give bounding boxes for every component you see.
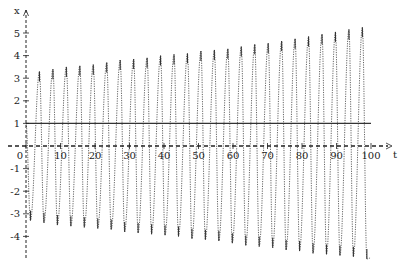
x-tick-label: 50 bbox=[192, 150, 205, 161]
x-axis-ticks: -4-3-2-112345 bbox=[10, 28, 29, 242]
x-tick-label: 0 bbox=[17, 150, 23, 161]
x-axis-label: x bbox=[14, 5, 20, 16]
x-tick-label: 20 bbox=[89, 150, 102, 161]
y-tick-label: 1 bbox=[14, 118, 20, 129]
y-tick-label: 4 bbox=[14, 50, 20, 61]
y-tick-label: 3 bbox=[14, 73, 20, 84]
y-tick-label: 5 bbox=[14, 28, 20, 39]
x-tick-label: 100 bbox=[361, 150, 380, 161]
y-tick-label: 2 bbox=[14, 95, 20, 106]
chart: 0102030405060708090100 -4-3-2-112345 t x bbox=[0, 0, 410, 273]
y-tick-label: -3 bbox=[10, 208, 20, 219]
x-tick-label: 60 bbox=[227, 150, 240, 161]
x-tick-label: 40 bbox=[158, 150, 171, 161]
y-tick-label: -2 bbox=[10, 186, 20, 197]
x-tick-label: 70 bbox=[261, 150, 274, 161]
t-axis-label: t bbox=[393, 149, 397, 160]
x-tick-label: 80 bbox=[296, 150, 309, 161]
y-tick-label: -4 bbox=[10, 231, 20, 242]
y-tick-label: -1 bbox=[10, 163, 20, 174]
plot-area: 0102030405060708090100 -4-3-2-112345 t x bbox=[0, 0, 410, 273]
x-tick-label: 10 bbox=[54, 150, 67, 161]
x-tick-label: 90 bbox=[330, 150, 343, 161]
x-tick-label: 30 bbox=[123, 150, 136, 161]
